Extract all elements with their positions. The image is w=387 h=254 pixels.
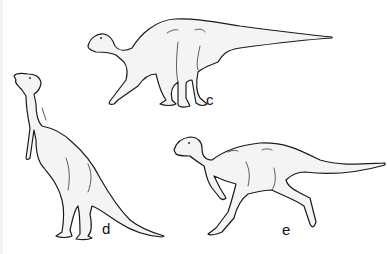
dinosaur-illustrations bbox=[0, 0, 387, 254]
label-e: e bbox=[282, 222, 290, 237]
dinosaur-d bbox=[14, 73, 164, 239]
label-d: d bbox=[102, 221, 110, 236]
dinosaur-e bbox=[174, 137, 385, 235]
label-c: c bbox=[206, 92, 214, 107]
figure-canvas: c d e bbox=[0, 0, 387, 254]
